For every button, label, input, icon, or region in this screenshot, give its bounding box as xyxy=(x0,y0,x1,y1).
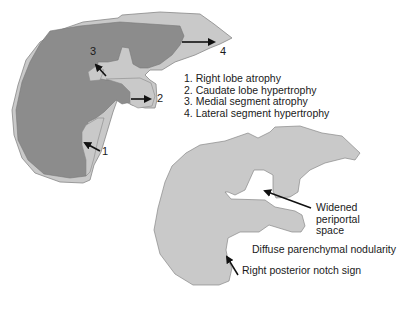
marker-3: 3 xyxy=(90,45,96,57)
label-widened-line1: Widened xyxy=(316,202,360,214)
marker-2: 2 xyxy=(157,92,163,104)
label-widened: Widened periportal space xyxy=(316,202,360,237)
marker-4: 4 xyxy=(220,45,226,57)
legend-item-4: 4. Lateral segment hypertrophy xyxy=(184,108,329,120)
label-notch: Right posterior notch sign xyxy=(242,265,361,277)
label-nodularity: Diffuse parenchymal nodularity xyxy=(252,244,396,256)
legend: 1. Right lobe atrophy 2. Caudate lobe hy… xyxy=(184,73,329,120)
label-widened-line3: space xyxy=(316,225,360,237)
marker-1: 1 xyxy=(102,145,108,157)
legend-item-1: 1. Right lobe atrophy xyxy=(184,73,329,85)
